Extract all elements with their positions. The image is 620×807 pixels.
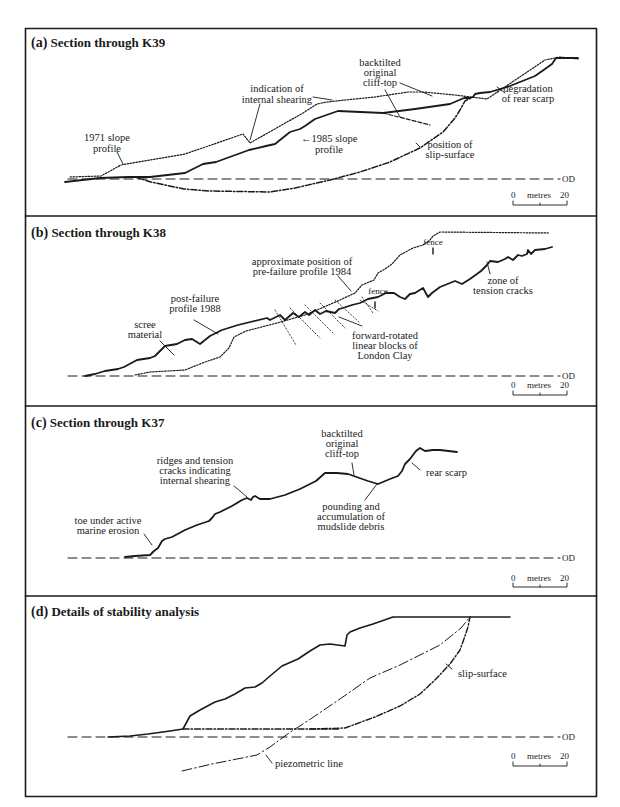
label-ridges: ridges and tensioncracks indicatinginter… — [157, 455, 234, 486]
label-toe: toe under activemarine erosion — [74, 515, 141, 536]
label-scree: screematerial — [128, 319, 162, 340]
label-rear-scarp-c: rear scarp — [426, 467, 467, 478]
label-pounding: pounding andaccumulation ofmudslide debr… — [317, 501, 385, 532]
panel-c-title: (c) Section through K37 — [31, 415, 165, 431]
piezometric-line — [182, 617, 470, 771]
scale-d: 0metres20 — [511, 751, 570, 761]
leader-toe — [144, 534, 152, 545]
scale-bar — [513, 201, 567, 205]
scale-a: 0metres20 — [511, 190, 570, 200]
label-slip-surface-d: slip-surface — [458, 668, 507, 679]
leader-ridges — [234, 486, 247, 497]
label-pre-failure: approximate position ofpre-failure profi… — [252, 256, 353, 277]
scale-b: 0metres20 — [511, 380, 570, 390]
label-fence-top: fence — [423, 237, 442, 247]
ground-profile-line — [108, 617, 510, 737]
panel-d-drawing — [68, 617, 567, 771]
label-cliff-top: backtiltedoriginalcliff-top — [359, 57, 401, 88]
leader-pre-failure — [338, 276, 351, 291]
panel-a-drawing — [65, 57, 578, 205]
label-rotated-blocks: forward-rotatedlinear blocks ofLondon Cl… — [352, 330, 419, 361]
label-cliff-top-c: backtiltedoriginalcliff-top — [321, 428, 363, 459]
label-post-failure: post-failureprofile 1988 — [169, 293, 221, 314]
od-label-c: OD — [562, 553, 575, 563]
label-piezometric: piezometric line — [275, 758, 343, 769]
od-label-d: OD — [562, 732, 575, 742]
panel-d-title: (d) Details of stability analysis — [31, 604, 199, 620]
cliff-top-line — [383, 113, 430, 125]
label-tension-cracks: zone oftension cracks — [473, 275, 533, 296]
scale-c: 0metres20 — [511, 573, 570, 583]
slip-surface-line — [310, 617, 470, 729]
label-1971-profile: 1971 slopeprofile — [84, 132, 130, 154]
leader-rear-scarp — [412, 463, 420, 470]
scale-bar — [513, 762, 567, 766]
label-slip-surface: position ofslip-surface — [426, 139, 475, 160]
leader-post-failure — [194, 320, 218, 334]
panel-b-title: (b) Section through K38 — [31, 225, 166, 241]
leader-piezometric — [266, 755, 272, 763]
leader-shearing — [250, 104, 260, 140]
profile-1971-line — [70, 57, 578, 177]
leader-slip — [416, 143, 420, 147]
leader-shearing-2 — [313, 97, 332, 100]
figure-main: (a) Section through K39 (b) Section thro… — [0, 0, 620, 807]
leader-cliff-top — [400, 83, 432, 96]
profile-1985-line — [65, 58, 578, 182]
od-label-a: OD — [562, 174, 575, 184]
label-fence-mid: fence — [368, 286, 387, 296]
leader-pounding — [365, 484, 377, 500]
label-1985-profile: ←1985 slopeprofile — [301, 133, 358, 155]
slip-surface-line — [135, 97, 473, 192]
label-rear-scarp: degradationof rear scarp — [502, 83, 554, 104]
scale-bar — [513, 583, 567, 587]
scale-bar — [513, 391, 567, 395]
leader-cliff-top — [352, 463, 354, 475]
label-internal-shearing: indication ofinternal shearing — [242, 83, 313, 105]
panel-a-title: (a) Section through K39 — [31, 35, 166, 51]
